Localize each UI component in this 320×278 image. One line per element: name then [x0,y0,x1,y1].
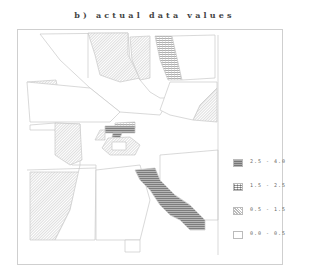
legend-swatch-low [233,231,243,239]
legend-label: 1.5 - 2.5 [250,182,286,188]
legend-item-midhigh: 1.5 - 2.5 [233,183,293,207]
legend-label: 0.0 - 0.5 [250,230,286,236]
legend-swatch-mid [233,207,243,215]
map-legend: 2.5 - 4.0 1.5 - 2.5 0.5 - 1.5 0.0 - 0.5 [233,159,293,255]
legend-label: 0.5 - 1.5 [250,206,286,212]
legend-label: 2.5 - 4.0 [250,158,286,164]
legend-swatch-high [233,159,243,167]
tract-boundaries [27,33,218,255]
legend-item-mid: 0.5 - 1.5 [233,207,293,231]
legend-swatch-midhigh [233,183,243,191]
legend-item-high: 2.5 - 4.0 [233,159,293,183]
legend-item-low: 0.0 - 0.5 [233,231,293,255]
